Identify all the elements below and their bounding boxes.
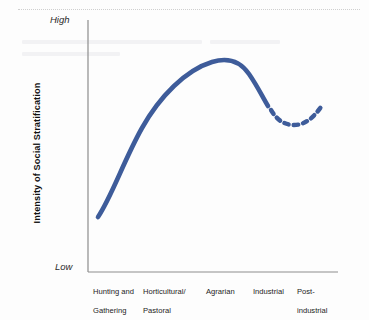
x-tick-line2: Gathering <box>93 306 126 315</box>
x-tick-label-post-industrial: Post- industrial <box>297 277 343 315</box>
x-tick-line1: Hunting and <box>93 287 134 296</box>
x-tick-label-agrarian: Agrarian <box>206 277 252 296</box>
stratification-chart-figure: High Low Intensity of Social Stratificat… <box>0 0 369 320</box>
x-tick-line1: Agrarian <box>206 287 235 296</box>
y-axis-title: Intensity of Social Stratification <box>32 68 42 238</box>
y-axis-high-label: High <box>50 14 70 25</box>
x-tick-label-industrial: Industrial <box>253 277 298 296</box>
stratification-dashed-curve <box>271 107 321 125</box>
x-tick-line1: Post- <box>297 287 315 296</box>
plot-area-svg <box>0 0 369 320</box>
x-tick-line1: Industrial <box>253 287 284 296</box>
y-axis-low-label: Low <box>55 261 72 272</box>
x-tick-line2: industrial <box>297 306 327 315</box>
x-tick-line2: Pastoral <box>143 306 171 315</box>
stratification-solid-curve <box>98 60 268 217</box>
x-tick-label-horticultural-pastoral: Horticultural/ Pastoral <box>143 277 209 315</box>
x-tick-line1: Horticultural/ <box>143 287 186 296</box>
